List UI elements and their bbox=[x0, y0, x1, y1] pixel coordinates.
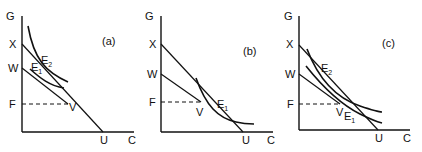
e1-label: E1 bbox=[344, 110, 355, 124]
point-w-label: W bbox=[147, 68, 158, 80]
e2-label: E2 bbox=[41, 54, 52, 68]
point-f-label: F bbox=[149, 96, 156, 108]
point-x-label: X bbox=[9, 38, 17, 50]
point-u-label: U bbox=[375, 132, 383, 144]
g-axis-label: G bbox=[6, 10, 15, 22]
panel-tag: (b) bbox=[243, 45, 256, 57]
budget-line-xu bbox=[161, 44, 243, 132]
three-panel-diagram: G C (a) X W F V U E2 E1 G C (b) X W F V … bbox=[0, 0, 422, 152]
point-x-label: X bbox=[286, 38, 294, 50]
budget-line-wv bbox=[161, 74, 201, 102]
point-v-label: V bbox=[196, 106, 204, 118]
c-axis-label: C bbox=[403, 132, 411, 144]
point-f-label: F bbox=[287, 98, 294, 110]
g-axis-label: G bbox=[145, 10, 154, 22]
panel-tag: (c) bbox=[382, 37, 395, 49]
point-v-label: V bbox=[336, 106, 344, 118]
panel-c: G C (c) X W F V U E2 E1 bbox=[284, 10, 411, 144]
c-axis-label: C bbox=[128, 134, 136, 146]
point-w-label: W bbox=[8, 62, 19, 74]
indifference-curve-1 bbox=[196, 78, 254, 124]
panel-b: G C (b) X W F V U E1 bbox=[145, 10, 275, 146]
panel-tag: (a) bbox=[102, 35, 115, 47]
c-axis-label: C bbox=[267, 134, 275, 146]
point-u-label: U bbox=[100, 134, 108, 146]
g-axis-label: G bbox=[284, 10, 293, 22]
point-x-label: X bbox=[149, 38, 157, 50]
point-f-label: F bbox=[9, 98, 16, 110]
e2-label: E2 bbox=[321, 62, 332, 76]
e1-label: E1 bbox=[217, 98, 228, 112]
point-w-label: W bbox=[285, 68, 296, 80]
point-u-label: U bbox=[242, 134, 250, 146]
budget-line-wv bbox=[299, 74, 340, 104]
panel-a: G C (a) X W F V U E2 E1 bbox=[6, 10, 136, 146]
